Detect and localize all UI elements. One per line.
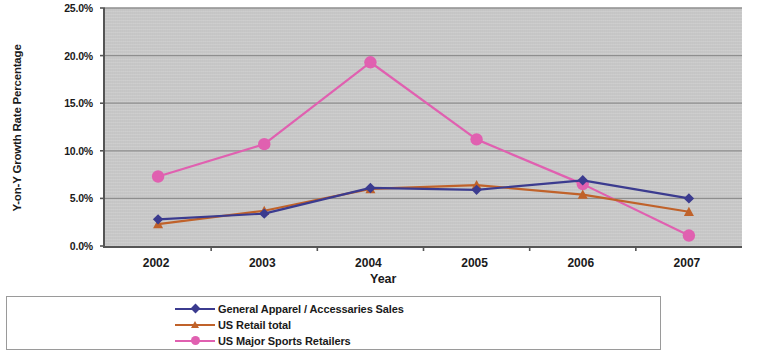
legend-label: US Major Sports Retailers: [218, 335, 351, 347]
legend-label: US Retail total: [218, 319, 291, 331]
y-axis-title: Y-on-Y Growth Rate Percentage: [11, 3, 23, 253]
x-axis-tick-labels: 200220032004200520062007: [103, 256, 740, 278]
data-point-marker: [684, 193, 694, 203]
plot-svg: [105, 8, 742, 246]
x-axis-title: Year: [370, 272, 396, 286]
data-point-marker: [683, 229, 695, 241]
series-line: [158, 62, 689, 235]
legend-swatch-triangle-icon: [175, 319, 215, 331]
data-point-marker: [470, 133, 482, 145]
line-chart-figure: Y-on-Y Growth Rate Percentage 0.0%5.0%10…: [0, 0, 777, 354]
y-axis-tick-label: 10.0%: [64, 145, 93, 157]
data-point-marker: [258, 138, 270, 150]
legend-label: General Apparel / Accessaries Sales: [218, 303, 404, 315]
series-2: [153, 180, 694, 228]
x-axis-tick-label: 2003: [249, 256, 276, 270]
y-axis-tick-labels: 0.0%5.0%10.0%15.0%20.0%25.0%: [26, 0, 98, 254]
y-axis-tick-label: 20.0%: [64, 50, 93, 62]
y-axis-tick-label: 25.0%: [64, 2, 93, 14]
y-axis-tick-label: 15.0%: [64, 97, 93, 109]
legend-entries: General Apparel / Accessaries SalesUS Re…: [175, 301, 404, 349]
data-point-marker: [152, 170, 164, 182]
x-axis-tick-label: 2002: [143, 256, 170, 270]
y-axis-tick-label: 0.0%: [70, 240, 93, 252]
x-axis-tick-label: 2007: [674, 256, 701, 270]
legend-item[interactable]: US Major Sports Retailers: [175, 333, 404, 348]
legend-item[interactable]: US Retail total: [175, 317, 404, 332]
legend-item[interactable]: General Apparel / Accessaries Sales: [175, 301, 404, 316]
x-axis-tick-label: 2006: [567, 256, 594, 270]
x-axis-tick-label: 2005: [461, 256, 488, 270]
plot-area: [103, 8, 742, 248]
legend: General Apparel / Accessaries SalesUS Re…: [6, 296, 661, 350]
data-point-marker: [364, 56, 376, 68]
legend-swatch-circle-icon: [175, 335, 215, 347]
legend-swatch-diamond-icon: [175, 303, 215, 315]
y-axis-tick-label: 5.0%: [70, 192, 93, 204]
x-axis-tick-label: 2004: [355, 256, 382, 270]
series-line: [158, 185, 689, 224]
